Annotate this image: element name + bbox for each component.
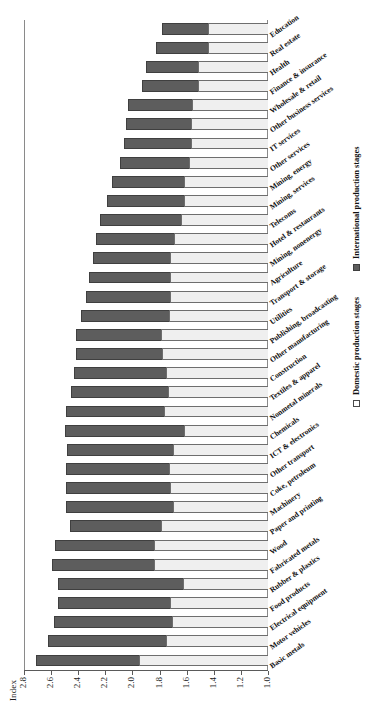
bar-group[interactable] — [24, 578, 268, 590]
bar-segment-international — [65, 425, 184, 437]
bar-group[interactable] — [24, 272, 268, 284]
bar-group[interactable] — [24, 252, 268, 264]
bar-group[interactable] — [24, 520, 268, 532]
bar-group[interactable] — [24, 195, 268, 207]
bar-segment-domestic — [174, 233, 268, 245]
bar-group[interactable] — [24, 80, 268, 92]
y-tick-label: 2.0 — [126, 677, 136, 688]
bar-segment-domestic — [198, 61, 268, 73]
bar-segment-domestic — [191, 118, 268, 130]
bar-segment-international — [71, 386, 167, 398]
bar-segment-international — [112, 176, 184, 188]
bar-segment-international — [126, 118, 191, 130]
bar-chart: Index 2.82.62.42.22.01.81.61.41.21.0 Bas… — [0, 0, 383, 707]
bar-segment-domestic — [189, 157, 268, 169]
bar-segment-international — [81, 310, 169, 322]
bar-segment-domestic — [208, 42, 268, 54]
y-tick-label: 1.6 — [181, 677, 191, 688]
bar-group[interactable] — [24, 23, 268, 35]
bar-segment-international — [54, 616, 172, 628]
bar-segment-domestic — [184, 195, 268, 207]
chart-legend: Domestic production stages International… — [352, 147, 361, 407]
y-axis-title: Index — [8, 680, 18, 701]
bar-segment-domestic — [169, 310, 268, 322]
bar-segment-domestic — [181, 214, 268, 226]
bar-group[interactable] — [24, 118, 268, 130]
bar-group[interactable] — [24, 559, 268, 571]
bar-segment-international — [74, 367, 166, 379]
bar-segment-domestic — [139, 655, 268, 667]
y-tick-label: 2.6 — [45, 677, 55, 688]
bar-segment-international — [55, 540, 154, 552]
bar-group[interactable] — [24, 406, 268, 418]
bar-segment-international — [58, 597, 171, 609]
legend-item-international: International production stages — [352, 147, 361, 271]
bar-group[interactable] — [24, 99, 268, 111]
bar-group[interactable] — [24, 176, 268, 188]
bar-segment-international — [66, 501, 173, 513]
y-tick-mark — [187, 671, 188, 675]
bar-group[interactable] — [24, 463, 268, 475]
y-tick-mark — [160, 671, 161, 675]
bar-group[interactable] — [24, 655, 268, 667]
bar-segment-international — [156, 42, 209, 54]
bar-segment-international — [36, 655, 139, 667]
y-tick-mark — [105, 671, 106, 675]
bars-group — [24, 20, 268, 670]
bar-segment-domestic — [161, 520, 268, 532]
bar-segment-international — [67, 444, 173, 456]
y-tick-mark — [132, 671, 133, 675]
bar-segment-domestic — [170, 291, 268, 303]
bar-segment-international — [96, 233, 175, 245]
bar-group[interactable] — [24, 348, 268, 360]
bar-group[interactable] — [24, 367, 268, 379]
y-tick-mark — [214, 671, 215, 675]
chart-page: Index 2.82.62.42.22.01.81.61.41.21.0 Bas… — [0, 0, 383, 707]
bar-segment-international — [52, 559, 154, 571]
bar-segment-domestic — [184, 425, 268, 437]
bar-segment-domestic — [173, 501, 268, 513]
bar-group[interactable] — [24, 61, 268, 73]
bar-group[interactable] — [24, 540, 268, 552]
bar-group[interactable] — [24, 635, 268, 647]
bar-segment-international — [124, 138, 190, 150]
bar-segment-international — [66, 482, 170, 494]
bar-group[interactable] — [24, 616, 268, 628]
y-tick-mark — [24, 671, 25, 675]
bar-segment-international — [120, 157, 189, 169]
bar-group[interactable] — [24, 233, 268, 245]
bar-group[interactable] — [24, 329, 268, 341]
bar-segment-domestic — [170, 272, 268, 284]
category-label: Wood — [268, 538, 289, 556]
legend-swatch-international-icon — [353, 264, 360, 271]
bar-group[interactable] — [24, 425, 268, 437]
bar-segment-international — [142, 80, 198, 92]
bar-segment-domestic — [154, 559, 268, 571]
bar-group[interactable] — [24, 386, 268, 398]
bar-group[interactable] — [24, 597, 268, 609]
bar-segment-domestic — [166, 367, 268, 379]
y-axis-ticks: 2.82.62.42.22.01.81.61.41.21.0 — [24, 671, 268, 707]
legend-label-international: International production stages — [352, 147, 361, 259]
y-tick-label: 1.4 — [208, 677, 218, 688]
bar-group[interactable] — [24, 444, 268, 456]
y-tick-label: 1.2 — [235, 677, 245, 688]
bar-segment-international — [70, 520, 161, 532]
bar-group[interactable] — [24, 138, 268, 150]
bar-segment-international — [100, 214, 181, 226]
bar-group[interactable] — [24, 291, 268, 303]
bar-segment-domestic — [170, 252, 268, 264]
bar-segment-international — [86, 291, 170, 303]
bar-segment-international — [93, 252, 170, 264]
bar-group[interactable] — [24, 42, 268, 54]
y-tick-mark — [78, 671, 79, 675]
bar-group[interactable] — [24, 482, 268, 494]
bar-group[interactable] — [24, 501, 268, 513]
bar-group[interactable] — [24, 310, 268, 322]
y-tick-label: 2.2 — [99, 677, 109, 688]
bar-group[interactable] — [24, 157, 268, 169]
y-tick-label: 2.4 — [72, 677, 82, 688]
bar-segment-domestic — [169, 463, 268, 475]
bar-group[interactable] — [24, 214, 268, 226]
bar-segment-international — [146, 61, 198, 73]
